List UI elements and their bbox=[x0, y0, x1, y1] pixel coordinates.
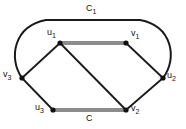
edge-label-c-label: C bbox=[86, 114, 93, 123]
vertex-v1 bbox=[123, 40, 128, 45]
graph-figure: u1v1v3u2u3v2 C1C bbox=[0, 0, 186, 129]
vertex-label-v1: v1 bbox=[131, 29, 139, 38]
graph-canvas bbox=[0, 0, 186, 129]
edge-label-c-label-base: C bbox=[86, 113, 93, 123]
vertex-label-u3-subscript: 3 bbox=[40, 107, 44, 114]
edge-u1-v3 bbox=[22, 43, 60, 78]
edge-label-c1-label: C1 bbox=[86, 4, 96, 13]
edge-v1-u2 bbox=[126, 43, 163, 78]
vertex-label-v1-subscript: 1 bbox=[136, 33, 140, 40]
vertex-v2 bbox=[123, 107, 128, 112]
vertex-label-v3: v3 bbox=[3, 70, 11, 79]
vertex-label-v2: v2 bbox=[131, 104, 139, 113]
vertex-label-u1-subscript: 1 bbox=[52, 32, 56, 39]
vertex-label-u2: u2 bbox=[167, 71, 176, 80]
vertex-v3 bbox=[19, 75, 24, 80]
edges-layer bbox=[22, 43, 163, 110]
edge-u1-v2 bbox=[60, 43, 126, 110]
vertex-u1 bbox=[57, 40, 62, 45]
vertex-label-v3-subscript: 3 bbox=[8, 74, 12, 81]
vertex-label-u1: u1 bbox=[47, 28, 56, 37]
vertex-label-v2-subscript: 2 bbox=[136, 108, 140, 115]
edge-label-c1-label-subscript: 1 bbox=[93, 8, 97, 15]
vertex-label-u2-subscript: 2 bbox=[172, 75, 176, 82]
vertex-u3 bbox=[50, 107, 55, 112]
vertex-label-u3: u3 bbox=[35, 103, 44, 112]
edge-c1-outer-curve bbox=[15, 20, 171, 78]
vertex-u2 bbox=[160, 75, 165, 80]
